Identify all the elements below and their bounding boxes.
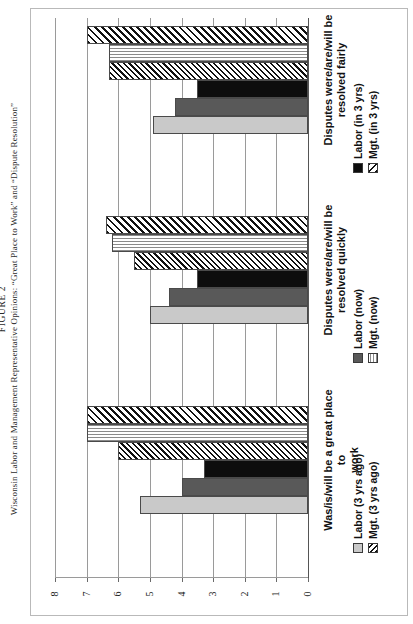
bar — [87, 406, 308, 424]
gridline-7 — [87, 18, 88, 578]
legend-label: Labor (now) — [352, 289, 364, 349]
tick-6 — [118, 578, 119, 582]
tick-8 — [55, 578, 56, 582]
bar — [87, 26, 308, 44]
category-label-resolved-fairly: Disputes were/are/will be resolved fairl… — [322, 5, 350, 155]
legend-item[interactable]: Mgt. (3 yrs ago) — [365, 443, 380, 553]
gridline-6 — [118, 18, 119, 578]
legend-swatch-icon — [353, 543, 363, 553]
tick-label-3: 3 — [207, 587, 219, 601]
legend-item[interactable]: Labor (in 3 yrs) — [350, 63, 365, 173]
legend-resolved-fairly: Labor (in 3 yrs)Mgt. (in 3 yrs) — [350, 63, 384, 173]
legend-swatch-icon — [353, 353, 363, 363]
tick-2 — [245, 578, 246, 582]
figure-container: FIGURE 2 Wisconsin Labor and Management … — [0, 0, 413, 624]
bar — [106, 216, 308, 234]
bar — [109, 62, 308, 80]
tick-label-2: 2 — [239, 587, 251, 601]
legend-great-place: Labor (3 yrs ago)Mgt. (3 yrs ago) — [350, 443, 384, 553]
legend-resolved-quickly: Labor (now)Mgt. (now) — [350, 253, 384, 363]
tick-3 — [213, 578, 214, 582]
figure-caption-text: Wisconsin Labor and Management Represent… — [8, 4, 21, 614]
gridline-5 — [150, 18, 151, 578]
tick-7 — [87, 578, 88, 582]
figure-caption-block: FIGURE 2 Wisconsin Labor and Management … — [0, 4, 30, 614]
bar — [134, 252, 308, 270]
tick-1 — [276, 578, 277, 582]
bar — [150, 306, 308, 324]
legend-item[interactable]: Labor (now) — [350, 253, 365, 363]
bar — [197, 270, 308, 288]
labels-and-legends: Disputes were/are/will be resolved fairl… — [312, 8, 408, 616]
tick-4 — [182, 578, 183, 582]
bar — [112, 234, 308, 252]
bar — [182, 478, 309, 496]
legend-label: Mgt. (in 3 yrs) — [367, 91, 379, 159]
bar — [169, 288, 308, 306]
category-label-great-place: Was/is/will be a great place to work — [322, 385, 350, 535]
tick-0 — [308, 578, 309, 582]
tick-label-8: 8 — [49, 587, 61, 601]
category-label-resolved-quickly: Disputes were/are/will be resolved quick… — [322, 195, 350, 345]
tick-label-6: 6 — [112, 587, 124, 601]
legend-swatch-icon — [368, 163, 378, 173]
legend-label: Mgt. (now) — [367, 297, 379, 349]
gridline-0 — [308, 18, 309, 578]
tick-label-5: 5 — [144, 587, 156, 601]
bar — [140, 496, 308, 514]
figure-number: FIGURE 2 — [0, 4, 8, 614]
tick-label-1: 1 — [270, 587, 282, 601]
bar — [118, 442, 308, 460]
bar — [87, 424, 308, 442]
legend-swatch-icon — [368, 353, 378, 363]
legend-item[interactable]: Labor (3 yrs ago) — [350, 443, 365, 553]
bar — [153, 116, 308, 134]
tick-label-4: 4 — [176, 587, 188, 601]
bar — [109, 44, 308, 62]
gridline-8 — [55, 18, 56, 578]
bar — [197, 80, 308, 98]
bar — [175, 98, 308, 116]
bar — [204, 460, 308, 478]
plot-area — [55, 18, 308, 578]
legend-swatch-icon — [353, 163, 363, 173]
legend-label: Labor (3 yrs ago) — [352, 454, 364, 539]
legend-swatch-icon — [368, 543, 378, 553]
legend-item[interactable]: Mgt. (in 3 yrs) — [365, 63, 380, 173]
tick-5 — [150, 578, 151, 582]
legend-label: Labor (in 3 yrs) — [352, 83, 364, 159]
tick-label-7: 7 — [81, 587, 93, 601]
legend-label: Mgt. (3 yrs ago) — [367, 461, 379, 539]
legend-item[interactable]: Mgt. (now) — [365, 253, 380, 363]
